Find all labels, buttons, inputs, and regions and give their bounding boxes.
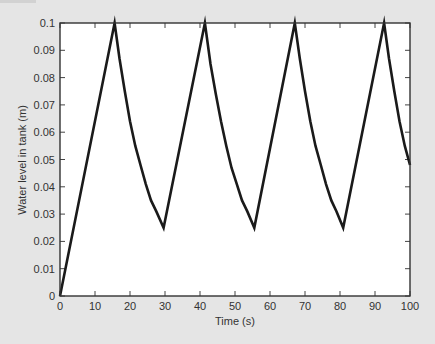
x-tick-label: 80 [334,300,346,312]
y-tick-label: 0.04 [34,181,55,193]
x-tick-label: 100 [401,300,419,312]
y-tick-label: 0.01 [34,263,55,275]
y-tick-label: 0 [49,290,55,302]
y-tick-label: 0.08 [34,72,55,84]
y-tick-label: 0.09 [34,44,55,56]
x-tick-label: 60 [264,300,276,312]
x-tick-label: 50 [229,300,241,312]
y-tick-label: 0.03 [34,208,55,220]
x-tick-label: 10 [89,300,101,312]
chart: 010203040506070809010000.010.020.030.040… [0,0,435,344]
y-tick-label: 0.06 [34,126,55,138]
y-tick-label: 0.05 [34,154,55,166]
x-tick-label: 40 [194,300,206,312]
y-tick-label: 0.07 [34,99,55,111]
x-tick-label: 30 [159,300,171,312]
y-tick-label: 0.1 [40,17,55,29]
y-tick-label: 0.02 [34,235,55,247]
x-axis-label: Time (s) [215,315,255,327]
x-tick-label: 20 [124,300,136,312]
y-axis-label: Water level in tank (m) [16,105,28,215]
x-tick-label: 0 [57,300,63,312]
x-tick-label: 90 [369,300,381,312]
x-tick-label: 70 [299,300,311,312]
